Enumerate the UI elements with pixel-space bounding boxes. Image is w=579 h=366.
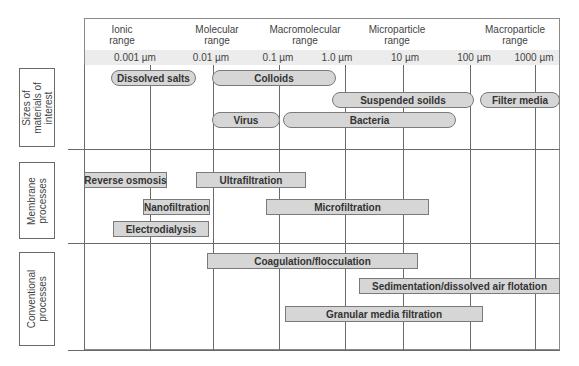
section-membrane-label: Membrane processes — [26, 177, 48, 225]
material-virus: Virus — [212, 112, 280, 128]
section-conventional-line1: Conventional — [26, 270, 37, 328]
material-filter-media: Filter media — [480, 92, 560, 108]
section-membrane-line2: processes — [37, 177, 48, 225]
range-ionic: Ionic range — [109, 24, 135, 46]
tick-1-0um: 1.0 µm — [322, 52, 353, 63]
range-molecular: Molecular range — [195, 24, 238, 46]
process-nanofiltration: Nanofiltration — [143, 199, 210, 215]
range-molecular-line1: Molecular — [195, 24, 238, 35]
tick-1000um: 1000 µm — [514, 52, 553, 63]
range-ionic-line1: Ionic — [109, 24, 135, 35]
section-materials-line1: Sizes of — [21, 82, 32, 134]
range-macromolecular: Macromolecular range — [269, 24, 340, 46]
range-microparticle: Microparticle range — [369, 24, 426, 46]
process-microfiltration: Microfiltration — [266, 199, 429, 215]
section-conventional-line2: processes — [37, 270, 48, 328]
section-materials-line3: interest — [43, 82, 54, 134]
range-macroparticle-line2: range — [485, 35, 545, 46]
section-materials: Sizes of materials of interest — [19, 68, 55, 147]
tick-100um: 100 µm — [457, 52, 491, 63]
process-granular-media-filtration: Granular media filtration — [285, 306, 483, 322]
material-suspended-solids: Suspended soilds — [332, 92, 474, 108]
section-membrane-line1: Membrane — [26, 177, 37, 225]
range-macroparticle: Macroparticle range — [485, 24, 545, 46]
divider-membrane-conventional — [68, 243, 560, 244]
section-materials-line2: materials of — [32, 82, 43, 134]
range-macromolecular-line2: range — [269, 35, 340, 46]
range-macroparticle-line1: Macroparticle — [485, 24, 545, 35]
range-microparticle-line1: Microparticle — [369, 24, 426, 35]
process-ultrafiltration: Ultrafiltration — [196, 172, 306, 188]
grid-line-left — [84, 65, 85, 350]
range-microparticle-line2: range — [369, 35, 426, 46]
tick-0-01um: 0.01 µm — [193, 52, 229, 63]
material-dissolved-salts: Dissolved salts — [111, 70, 196, 86]
process-reverse-osmosis: Reverse osmosis — [84, 172, 167, 188]
range-molecular-line2: range — [195, 35, 238, 46]
range-ionic-line2: range — [109, 35, 135, 46]
grid-line-0-01 — [213, 65, 214, 350]
range-macromolecular-line1: Macromolecular — [269, 24, 340, 35]
tick-0-1um: 0.1 µm — [263, 52, 294, 63]
tick-0-001um: 0.001 µm — [114, 52, 156, 63]
process-coagulation-flocculation: Coagulation/flocculation — [207, 253, 418, 269]
section-materials-label: Sizes of materials of interest — [21, 82, 54, 134]
divider-bottom — [68, 350, 560, 351]
section-membrane: Membrane processes — [19, 162, 55, 239]
process-electrodialysis: Electrodialysis — [113, 221, 209, 237]
section-conventional: Conventional processes — [19, 252, 55, 346]
material-colloids: Colloids — [212, 70, 336, 86]
material-bacteria: Bacteria — [283, 112, 456, 128]
divider-materials-membrane — [68, 149, 560, 150]
tick-10um: 10 µm — [391, 52, 419, 63]
section-conventional-label: Conventional processes — [26, 270, 48, 328]
process-sedimentation-daf: Sedimentation/dissolved air flotation — [359, 278, 560, 294]
